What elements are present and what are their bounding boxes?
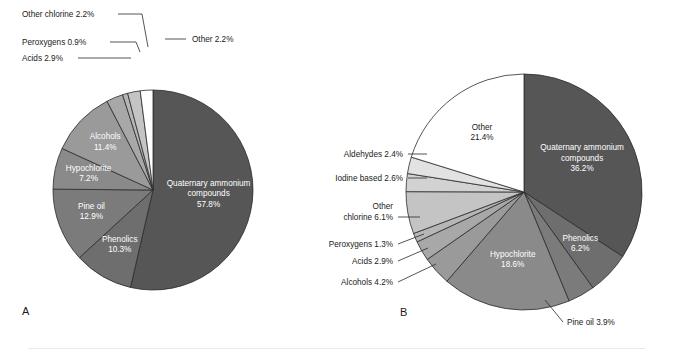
callout-label-b-4: Peroxygens 1.3% (329, 240, 393, 249)
panel-letter-a: A (22, 305, 30, 317)
figure-container: Quaternary ammoniumcompounds57.8%Phenoli… (0, 0, 673, 362)
slice-label-b-quaternary-ammonium-compounds: 36.2% (570, 164, 593, 173)
callout-label-b-5: Acids 2.9% (352, 257, 393, 266)
callout-label-a-2: Acids 2.9% (22, 54, 63, 63)
slice-label-b-phenolics: 6.2% (571, 244, 590, 253)
callout-label-b-6: Alcohols 4.2% (341, 278, 393, 287)
callout-leader-b-6 (398, 264, 436, 282)
callout-label-b-1: Iodine based 2.6% (335, 174, 403, 183)
callout-label-b-7: Pine oil 3.9% (567, 318, 615, 327)
slice-label-b-phenolics: Phenolics (563, 234, 599, 243)
slice-label-a-alcohols: Alcohols (90, 132, 121, 141)
slice-label-a-pine-oil: Pine oil (78, 202, 105, 211)
pie-A: Quaternary ammoniumcompounds57.8%Phenoli… (22, 10, 253, 290)
slice-label-a-hypochlorite: 7.2% (79, 174, 98, 183)
callout-leader-a-1 (110, 42, 140, 52)
slice-label-a-quaternary-ammonium-compounds: 57.8% (197, 200, 220, 209)
callout-label-a-0: Other chlorine 2.2% (22, 10, 94, 19)
slice-label-a-hypochlorite: Hypochlorite (66, 164, 112, 173)
callout-label-b-2: Other (373, 202, 394, 211)
slice-label-a-pine-oil: 12.9% (80, 212, 103, 221)
slice-label-b-other: Other (472, 123, 493, 132)
callout-label-a-3: Other 2.2% (192, 35, 233, 44)
callout-label-a-1: Peroxygens 0.9% (22, 38, 86, 47)
slice-label-a-alcohols: 11.4% (94, 143, 117, 152)
slice-label-a-phenolics: Phenolics (102, 235, 138, 244)
slice-label-b-hypochlorite: Hypochlorite (490, 250, 536, 259)
footer-divider (28, 348, 645, 349)
slice-label-b-quaternary-ammonium-compounds: Quaternary ammonium (540, 143, 624, 152)
pie-charts-svg: Quaternary ammoniumcompounds57.8%Phenoli… (0, 0, 673, 362)
slice-label-b-other: 21.4% (470, 133, 493, 142)
callout-label-b-3: chlorine 6.1% (343, 213, 393, 222)
slice-label-a-quaternary-ammonium-compounds: Quaternary ammonium (167, 179, 251, 188)
callout-label-b-0: Aldehydes 2.4% (344, 150, 403, 159)
slice-label-a-quaternary-ammonium-compounds: compounds (187, 189, 229, 198)
panel-letter-b: B (400, 306, 407, 318)
slice-label-b-hypochlorite: 18.6% (501, 260, 524, 269)
slice-label-b-quaternary-ammonium-compounds: compounds (561, 154, 603, 163)
pie-B: Quaternary ammoniumcompounds36.2%Phenoli… (329, 74, 642, 327)
slice-label-a-phenolics: 10.3% (108, 245, 131, 254)
